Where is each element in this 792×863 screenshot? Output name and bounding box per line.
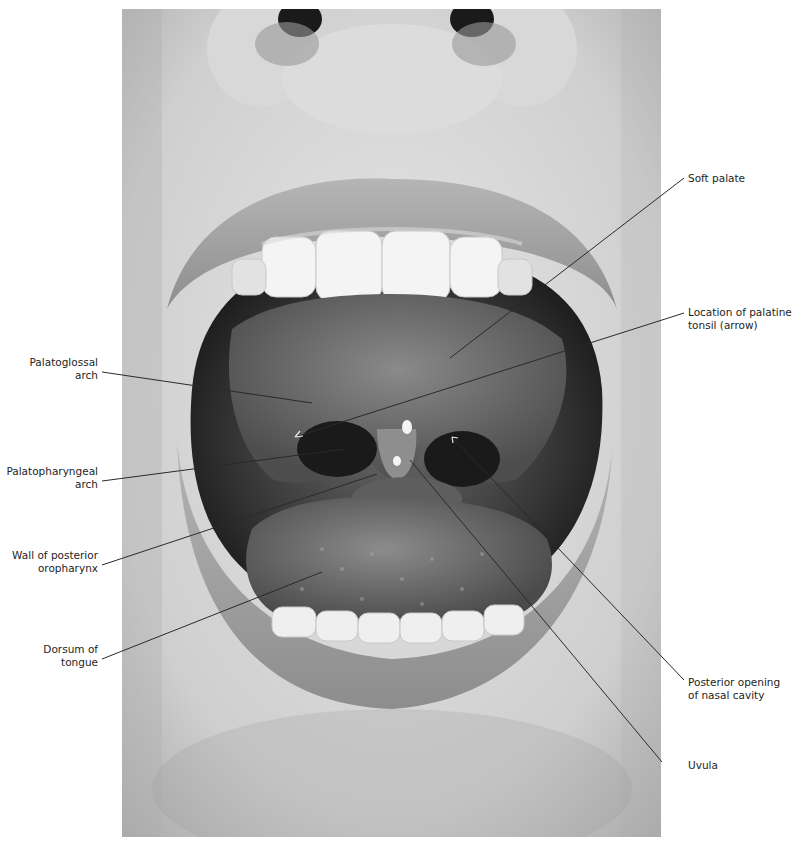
label-palatoglossal-arch: Palatoglossal arch	[30, 356, 99, 382]
label-palatopharyngeal-arch: Palatopharyngeal arch	[6, 465, 98, 491]
label-soft-palate: Soft palate	[688, 172, 745, 185]
label-line: of nasal cavity	[688, 689, 780, 702]
label-line: Uvula	[688, 759, 718, 772]
label-line: Palatopharyngeal	[6, 465, 98, 478]
label-dorsum-of-tongue: Dorsum of tongue	[43, 643, 98, 669]
label-line: Dorsum of	[43, 643, 98, 656]
label-wall-posterior-oropharynx: Wall of posterior oropharynx	[12, 549, 98, 575]
label-line: oropharynx	[12, 562, 98, 575]
label-line: Soft palate	[688, 172, 745, 185]
label-line: Palatoglossal	[30, 356, 99, 369]
label-line: arch	[30, 369, 99, 382]
label-line: tongue	[43, 656, 98, 669]
label-uvula: Uvula	[688, 759, 718, 772]
label-line: Location of palatine	[688, 306, 792, 319]
oral-cavity-photo	[122, 9, 661, 837]
label-line: arch	[6, 478, 98, 491]
label-line: Posterior opening	[688, 676, 780, 689]
label-palatine-tonsil: Location of palatine tonsil (arrow)	[688, 306, 792, 332]
label-line: tonsil (arrow)	[688, 319, 792, 332]
label-line: Wall of posterior	[12, 549, 98, 562]
label-posterior-opening-nasal-cavity: Posterior opening of nasal cavity	[688, 676, 780, 702]
anatomy-figure: Palatoglossal arch Palatopharyngeal arch…	[0, 0, 792, 863]
